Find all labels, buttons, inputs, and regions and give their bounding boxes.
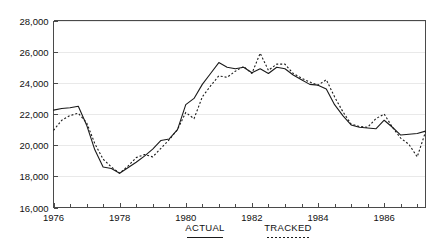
x-tick-label: 1976 — [43, 212, 64, 223]
legend-label-actual: ACTUAL — [185, 222, 224, 233]
x-tick-label: 1980 — [175, 212, 196, 223]
y-tick-label: 28,000 — [19, 16, 48, 27]
x-tick-label: 1978 — [109, 212, 130, 223]
y-tick-label: 20,000 — [19, 140, 48, 151]
x-tick-label: 1986 — [374, 212, 395, 223]
y-tick-label: 26,000 — [19, 47, 48, 58]
y-tick-label: 22,000 — [19, 109, 48, 120]
chart-container: 28,00026,00024,00022,00020,00018,00016,0… — [0, 0, 440, 251]
line-chart: 28,00026,00024,00022,00020,00018,00016,0… — [0, 0, 440, 251]
x-tick-label: 1982 — [241, 212, 262, 223]
x-tick-label: 1984 — [307, 212, 328, 223]
y-tick-label: 24,000 — [19, 78, 48, 89]
legend-label-tracked: TRACKED — [264, 222, 312, 233]
y-tick-label: 18,000 — [19, 171, 48, 182]
